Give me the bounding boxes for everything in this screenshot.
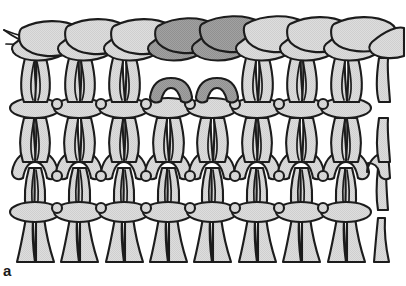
course-1-to-2-legs-right: [242, 58, 390, 102]
course-2-to-3-legs: [20, 118, 390, 162]
course-1-top-braid: [4, 16, 404, 60]
course-4-bottom-legs: [17, 218, 389, 262]
course-4-loop-heads: [10, 202, 371, 222]
diagram-layers: [4, 16, 404, 262]
figure-panel-label: a: [3, 263, 11, 279]
knit-structure-figure: a: [0, 0, 406, 286]
course-1-to-2-legs-left: [21, 58, 140, 102]
knit-diagram-svg: [0, 0, 406, 286]
